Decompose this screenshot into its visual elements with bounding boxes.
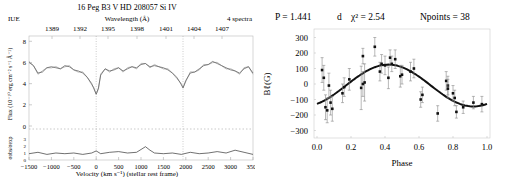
x-tick-label: −1000 bbox=[43, 163, 60, 170]
data-point bbox=[360, 87, 363, 90]
data-point bbox=[401, 73, 404, 76]
x-tick-label: −500 bbox=[67, 163, 80, 170]
data-point bbox=[362, 55, 365, 58]
data-point bbox=[331, 108, 334, 111]
data-point bbox=[452, 92, 455, 95]
period-label: P = 1.441 bbox=[275, 12, 312, 22]
data-point bbox=[472, 101, 475, 104]
data-point bbox=[445, 80, 448, 83]
data-point bbox=[343, 86, 346, 89]
top-tick-label: 1404 bbox=[187, 25, 202, 33]
data-point bbox=[389, 56, 392, 59]
y-tick-label: 8 bbox=[23, 38, 26, 45]
data-point bbox=[394, 58, 397, 61]
x-tick-label: 500 bbox=[114, 163, 124, 170]
data-point bbox=[326, 109, 329, 112]
data-point bbox=[419, 98, 422, 101]
data-point bbox=[421, 94, 424, 97]
x-axis-label: Velocity (km s⁻¹) (stellar rest frame) bbox=[76, 170, 179, 177]
top-tick-label: 1398 bbox=[130, 25, 145, 33]
spectrum-chart: 16 Peg B3 V HD 208057 Si IVIUEWavelength… bbox=[0, 0, 255, 177]
y-tick-label: 4 bbox=[23, 80, 27, 87]
y-tick-label: −300 bbox=[290, 126, 308, 136]
x-tick-label: 1.0 bbox=[482, 142, 493, 152]
lower-y-tick-label: 1 bbox=[24, 151, 27, 156]
sigma-ratio-line bbox=[29, 147, 253, 155]
top-tick-label: 1392 bbox=[73, 25, 88, 33]
y-tick-label: 0 bbox=[23, 123, 26, 130]
data-point bbox=[329, 101, 332, 104]
data-point bbox=[387, 77, 390, 80]
x-tick-label: 1500 bbox=[157, 163, 170, 170]
x-tick-label: 2500 bbox=[202, 163, 215, 170]
data-point bbox=[436, 112, 439, 115]
x-tick-label: 0.8 bbox=[448, 142, 459, 152]
data-point bbox=[384, 64, 387, 67]
x-tick-label: 0.4 bbox=[380, 142, 391, 152]
x-tick-label: 0.0 bbox=[312, 142, 323, 152]
data-point bbox=[455, 111, 458, 114]
y-tick-label: 0 bbox=[304, 79, 308, 89]
data-point bbox=[409, 70, 412, 73]
x-tick-label: 1000 bbox=[135, 163, 148, 170]
data-point bbox=[462, 106, 465, 109]
top-tick-label: 1407 bbox=[215, 25, 230, 33]
top-axis-label: Wavelength (Å) bbox=[105, 15, 150, 23]
spectra-count-label: 4 spectra bbox=[227, 15, 253, 23]
y-tick-label: 2 bbox=[23, 101, 26, 108]
flux-axis-label: Flux (10⁻¹⁰ erg cm⁻² s⁻¹ Å⁻¹) bbox=[6, 48, 14, 120]
top-tick-label: 1401 bbox=[159, 25, 174, 33]
chart-title: 16 Peg B3 V HD 208057 Si IV bbox=[77, 3, 177, 12]
data-point bbox=[374, 46, 377, 49]
data-point bbox=[481, 103, 484, 106]
data-point bbox=[324, 106, 327, 109]
instrument-label: IUE bbox=[8, 15, 20, 23]
period-unit-label: d bbox=[337, 12, 342, 22]
magnetic-field-chart: P = 1.441dχ² = 2.54Npoints = 38300200100… bbox=[255, 0, 505, 177]
data-point bbox=[328, 84, 331, 87]
lower-y-tick-label: 3 bbox=[24, 137, 27, 142]
y-tick-label: 200 bbox=[295, 48, 308, 58]
x-axis-label: Phase bbox=[392, 158, 413, 168]
data-point bbox=[453, 97, 456, 100]
x-tick-label: 3500 bbox=[247, 163, 256, 170]
x-tick-label: 0.2 bbox=[346, 142, 357, 152]
x-tick-label: 3000 bbox=[224, 163, 237, 170]
npoints-label: Npoints = 38 bbox=[420, 12, 470, 22]
data-point bbox=[321, 69, 324, 72]
top-tick-label: 1389 bbox=[45, 25, 60, 33]
data-point bbox=[323, 77, 326, 80]
y-tick-label: 6 bbox=[23, 59, 27, 66]
sigma-axis-label: σobs/σexp bbox=[7, 136, 13, 159]
data-point bbox=[379, 70, 382, 73]
chi2-label: χ² = 2.54 bbox=[350, 12, 385, 22]
top-tick-label: 1395 bbox=[101, 25, 116, 33]
data-point bbox=[362, 83, 365, 86]
data-point bbox=[391, 63, 394, 66]
x-tick-label: 2000 bbox=[179, 163, 192, 170]
y-tick-label: −100 bbox=[290, 95, 308, 105]
x-tick-label: 0 bbox=[95, 163, 98, 170]
y-axis-label: Bℓ(G) bbox=[262, 73, 272, 96]
data-point bbox=[447, 87, 450, 90]
lower-y-tick-label: 2 bbox=[24, 144, 27, 149]
x-tick-label: 0.6 bbox=[414, 142, 425, 152]
y-tick-label: 300 bbox=[295, 33, 308, 43]
x-tick-label: −1500 bbox=[21, 163, 38, 170]
individual-spectra-line bbox=[29, 61, 253, 94]
plot-frame bbox=[29, 36, 253, 160]
data-point bbox=[380, 63, 383, 66]
data-point bbox=[413, 67, 416, 70]
data-point bbox=[341, 92, 344, 95]
y-tick-label: −200 bbox=[290, 110, 308, 120]
mean-spectrum-line bbox=[29, 61, 253, 94]
y-tick-label: 100 bbox=[295, 64, 308, 74]
data-point bbox=[348, 78, 351, 81]
